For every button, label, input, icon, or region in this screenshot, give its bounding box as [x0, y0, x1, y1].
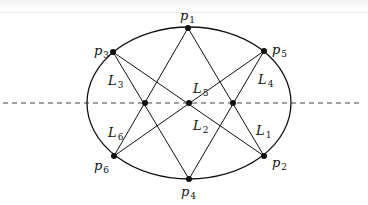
point-p3 [110, 49, 116, 55]
label-p2: p2 [272, 155, 287, 172]
chord-l6 [114, 28, 188, 156]
intersection-point-2 [186, 100, 192, 106]
point-p5 [261, 48, 267, 54]
label-p1: p1 [180, 8, 195, 25]
label-l1: L1 [255, 123, 271, 140]
intersection-point-3 [230, 100, 236, 106]
point-p2 [261, 153, 267, 159]
label-l3: L3 [107, 73, 124, 90]
intersection-point-1 [142, 100, 148, 106]
label-l2: L2 [192, 118, 208, 135]
label-p6: p6 [94, 158, 109, 175]
point-p6 [111, 153, 117, 159]
label-l4: L4 [257, 72, 274, 89]
label-l5: L5 [192, 81, 209, 98]
label-p3: p3 [94, 43, 109, 60]
label-p4: p4 [181, 184, 196, 201]
ellipse-hexagram-diagram: p1p2p3p4p5p6L1L2L3L4L5L6 [0, 0, 368, 205]
point-p4 [186, 176, 192, 182]
point-p1 [185, 25, 191, 31]
label-p5: p5 [272, 42, 287, 59]
label-l6: L6 [107, 125, 124, 142]
chord-l3 [113, 52, 189, 179]
chord-l4 [189, 51, 264, 179]
